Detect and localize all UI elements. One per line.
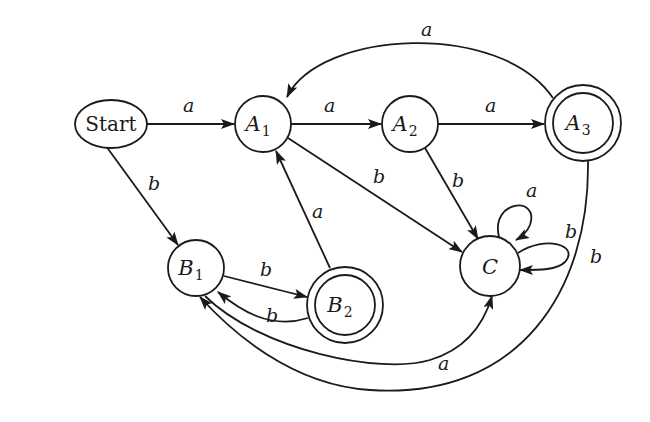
edge-label: b <box>565 220 577 242</box>
svg-text:C: C <box>482 255 498 279</box>
state-a2: A2 <box>382 96 438 152</box>
state-diagram: a b a b a b a b b a b a <box>0 0 650 422</box>
edge-c-c-b: b <box>518 220 577 270</box>
edge-a3-a1: a <box>287 18 553 98</box>
state-c: C <box>460 236 520 296</box>
start-label: Start <box>85 112 136 136</box>
edge-label: b <box>373 165 385 187</box>
edge-start-b1: b <box>106 146 178 245</box>
edge-c-c-a: a <box>498 179 537 240</box>
edge-a2-c: b <box>425 148 478 239</box>
edge-label: a <box>526 179 537 201</box>
edge-a1-a2: a <box>291 94 381 124</box>
edge-label: a <box>485 94 496 116</box>
edge-b2-a1: a <box>276 151 330 268</box>
state-a3-accepting: A3 <box>545 85 621 161</box>
edge-label: b <box>452 169 464 191</box>
edge-label: b <box>266 304 278 326</box>
edge-label: b <box>148 172 160 194</box>
edge-label: b <box>260 258 272 280</box>
edge-label: a <box>421 18 432 40</box>
start-node: Start <box>75 100 147 148</box>
edge-start-a1: a <box>147 94 234 124</box>
state-a1: A1 <box>235 96 291 152</box>
state-b2-accepting: B2 <box>307 267 383 343</box>
edge-label: a <box>324 94 335 116</box>
edge-label: a <box>438 352 449 374</box>
state-b1: B1 <box>168 240 224 296</box>
edge-b1-b2: b <box>224 258 307 297</box>
edge-label: b <box>590 245 602 267</box>
edge-label: a <box>312 200 323 222</box>
edge-label: a <box>183 94 194 116</box>
edge-a2-a3: a <box>438 94 544 124</box>
edge-b2-b1: b <box>218 292 308 326</box>
